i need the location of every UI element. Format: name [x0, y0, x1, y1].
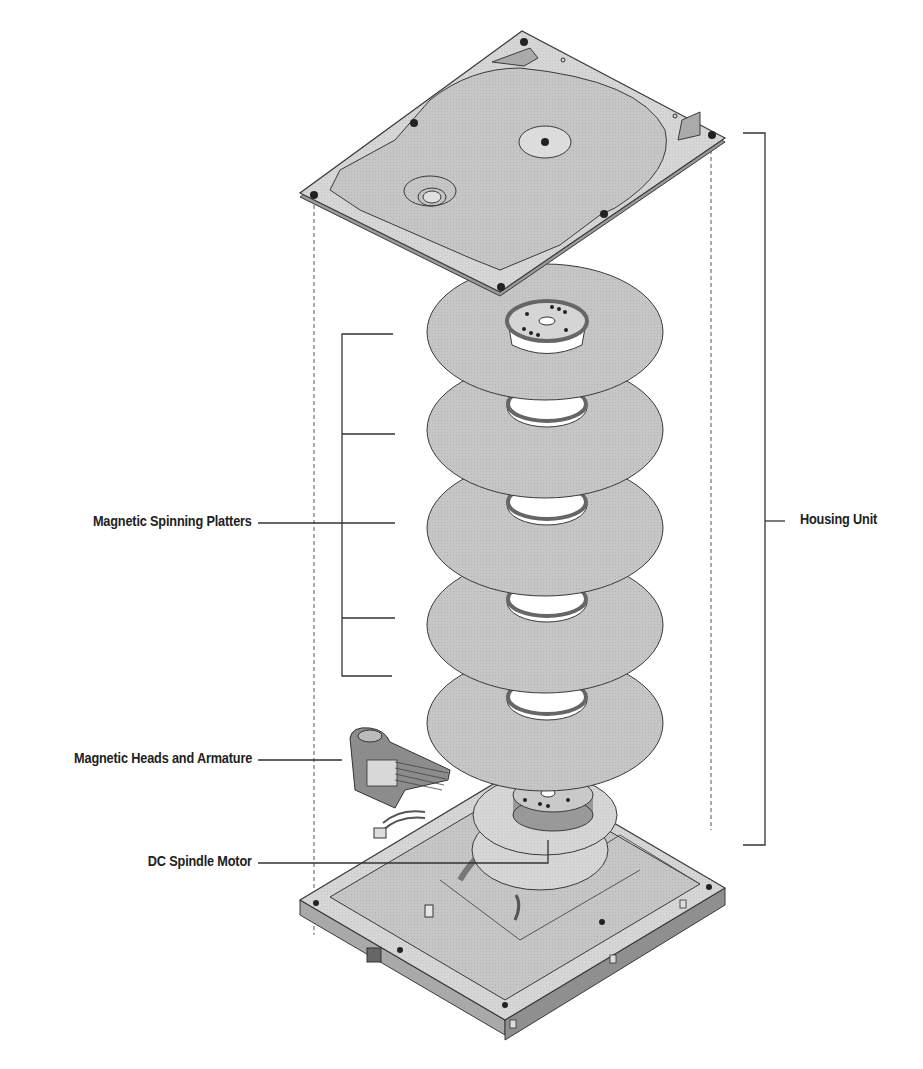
label-spindle-motor: DC Spindle Motor [148, 852, 252, 870]
label-platters: Magnetic Spinning Platters [93, 512, 252, 530]
label-heads-armature: Magnetic Heads and Armature [74, 749, 252, 767]
platter [427, 264, 663, 400]
label-housing-unit: Housing Unit [800, 510, 877, 528]
hdd-exploded-diagram [0, 0, 923, 1069]
platter-stack [427, 264, 663, 791]
spindle-motor [472, 775, 617, 890]
top-cover [300, 31, 725, 296]
